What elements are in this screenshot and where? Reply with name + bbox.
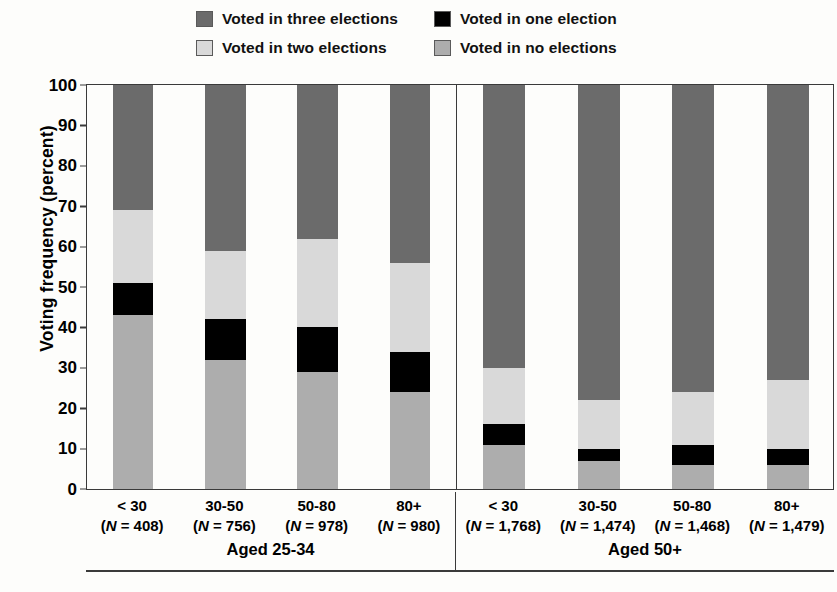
bar-segment-none[interactable] — [205, 360, 246, 489]
y-axis-tick-mark — [80, 85, 87, 86]
panel-aged-25-34 — [87, 85, 456, 489]
x-axis-panel-right: < 30(N = 1,768)30-50(N = 1,474)50-80(N =… — [455, 492, 834, 570]
bar-segment-one[interactable] — [390, 352, 431, 392]
bar-segment-two[interactable] — [578, 400, 620, 448]
bar-segment-three[interactable] — [390, 85, 431, 263]
bar-segment-none[interactable] — [578, 461, 620, 489]
bar-group[interactable] — [552, 85, 647, 489]
y-axis-tick-label: 10 — [58, 439, 77, 459]
bar-segment-two[interactable] — [390, 263, 431, 352]
bar-group[interactable] — [457, 85, 552, 489]
bar-segment-none[interactable] — [672, 465, 714, 489]
y-axis-tick-mark — [80, 367, 87, 368]
stacked-bar[interactable] — [390, 85, 431, 489]
x-axis-sample-size: (N = 756) — [178, 516, 270, 536]
legend-item-none: Voted in no elections — [434, 39, 666, 57]
bar-segment-two[interactable] — [672, 392, 714, 445]
legend-label-three: Voted in three elections — [222, 10, 398, 28]
bar-group[interactable] — [741, 85, 836, 489]
x-axis-category-name: < 30 — [86, 496, 178, 516]
stacked-bar[interactable] — [205, 85, 246, 489]
x-axis-category-label: < 30(N = 408) — [86, 496, 178, 537]
panel-aged-50-plus — [456, 85, 835, 489]
bar-segment-one[interactable] — [205, 319, 246, 359]
y-axis-tick-label: 80 — [58, 156, 77, 176]
y-axis-tick-mark — [80, 448, 87, 449]
bar-segment-one[interactable] — [297, 327, 338, 371]
legend-swatch-three-icon — [196, 11, 213, 27]
y-axis-tick-label: 90 — [58, 115, 77, 135]
y-axis-tick-mark — [80, 327, 87, 328]
x-axis: < 30(N = 408)30-50(N = 756)50-80(N = 978… — [86, 492, 834, 592]
x-axis-category-name: 50-80 — [645, 496, 740, 516]
bar-segment-two[interactable] — [113, 210, 154, 283]
bar-segment-three[interactable] — [297, 85, 338, 239]
legend-swatch-none-icon — [434, 40, 451, 56]
bar-segment-three[interactable] — [205, 85, 246, 251]
legend-item-two: Voted in two elections — [196, 39, 434, 57]
bar-segment-two[interactable] — [483, 368, 525, 425]
bar-segment-two[interactable] — [297, 239, 338, 328]
y-axis-tick-mark — [80, 125, 87, 126]
legend-swatch-one-icon — [434, 11, 451, 27]
bar-segment-one[interactable] — [578, 449, 620, 461]
bar-segment-none[interactable] — [297, 372, 338, 489]
bar-segment-two[interactable] — [767, 380, 809, 449]
y-axis-tick-label: 100 — [49, 75, 77, 95]
bar-segment-three[interactable] — [672, 85, 714, 392]
y-axis-tick-mark — [80, 246, 87, 247]
y-axis-tick-mark — [80, 287, 87, 288]
bar-segment-one[interactable] — [113, 283, 154, 315]
bar-segment-one[interactable] — [767, 449, 809, 465]
bar-segment-none[interactable] — [113, 315, 154, 489]
x-axis-category-name: < 30 — [456, 496, 551, 516]
bar-segment-one[interactable] — [672, 445, 714, 465]
stacked-bar[interactable] — [672, 85, 714, 489]
y-axis-tick-label: 40 — [58, 317, 77, 337]
x-axis-category-label: 50-80(N = 1,468) — [645, 496, 740, 537]
bar-segment-two[interactable] — [205, 251, 246, 320]
bar-group[interactable] — [646, 85, 741, 489]
chart-legend: Voted in three elections Voted in one el… — [196, 4, 666, 62]
bar-segment-none[interactable] — [390, 392, 431, 489]
bar-group[interactable] — [272, 85, 364, 489]
stacked-bar[interactable] — [767, 85, 809, 489]
x-axis-sample-size: (N = 408) — [86, 516, 178, 536]
x-axis-sample-size: (N = 1,468) — [645, 516, 740, 536]
y-axis-title: Voting frequency (percent) — [37, 44, 58, 434]
bar-segment-three[interactable] — [483, 85, 525, 368]
stacked-bar[interactable] — [297, 85, 338, 489]
x-axis-category-label: 30-50(N = 756) — [178, 496, 270, 537]
y-axis-tick-mark — [80, 489, 87, 490]
bar-group[interactable] — [179, 85, 271, 489]
figure-baseline-rule — [86, 570, 834, 572]
legend-label-one: Voted in one election — [460, 10, 617, 28]
x-axis-panel-left: < 30(N = 408)30-50(N = 756)50-80(N = 978… — [86, 492, 455, 570]
stacked-bar[interactable] — [483, 85, 525, 489]
bar-segment-three[interactable] — [578, 85, 620, 400]
bar-group[interactable] — [364, 85, 456, 489]
group-title-right: Aged 50+ — [456, 540, 834, 559]
x-axis-category-labels-left: < 30(N = 408)30-50(N = 756)50-80(N = 978… — [86, 496, 455, 540]
stacked-bar[interactable] — [578, 85, 620, 489]
legend-swatch-two-icon — [196, 40, 213, 56]
bar-segment-three[interactable] — [767, 85, 809, 380]
x-axis-category-label: < 30(N = 1,768) — [456, 496, 551, 537]
x-axis-category-name: 80+ — [740, 496, 835, 516]
y-axis-tick-label: 60 — [58, 237, 77, 257]
x-axis-category-labels-right: < 30(N = 1,768)30-50(N = 1,474)50-80(N =… — [456, 496, 834, 540]
x-axis-sample-size: (N = 980) — [363, 516, 455, 536]
x-axis-sample-size: (N = 978) — [271, 516, 363, 536]
bar-segment-none[interactable] — [767, 465, 809, 489]
bar-group[interactable] — [87, 85, 179, 489]
plot-area: 1009080706050403020100 — [86, 84, 834, 490]
legend-label-none: Voted in no elections — [460, 39, 617, 57]
legend-item-three: Voted in three elections — [196, 10, 434, 28]
bar-segment-none[interactable] — [483, 445, 525, 489]
y-axis-tick-label: 30 — [58, 358, 77, 378]
bar-segment-three[interactable] — [113, 85, 154, 210]
stacked-bar[interactable] — [113, 85, 154, 489]
bar-segment-one[interactable] — [483, 424, 525, 444]
y-axis-tick-label: 70 — [58, 196, 77, 216]
x-axis-category-name: 80+ — [363, 496, 455, 516]
